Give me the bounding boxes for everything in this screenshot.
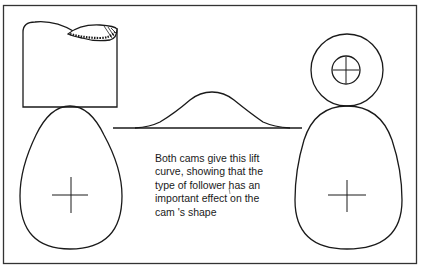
flat-follower xyxy=(23,22,117,107)
left-cam xyxy=(20,106,122,249)
lift-curve xyxy=(113,92,302,128)
cam-follower-diagram xyxy=(0,0,422,268)
right-cam xyxy=(295,106,402,249)
roller-follower xyxy=(311,34,383,106)
diagram-caption: Both cams give this lift curve, showing … xyxy=(155,152,305,219)
